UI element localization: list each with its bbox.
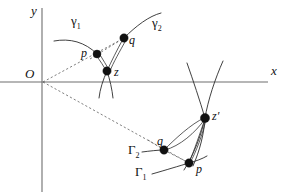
point-label-p-lower: p <box>196 163 202 175</box>
point-label-p-upper: p <box>81 47 87 59</box>
zprime-branch-upper-left <box>187 63 205 118</box>
point-p-upper <box>93 50 101 58</box>
gamma-1-subscript: 1 <box>77 22 81 31</box>
figure-canvas: y x O γ1 γ2 Γ2 Γ1 p q z z′ q p <box>0 0 295 192</box>
Gamma-2-subscript: 2 <box>136 151 140 160</box>
point-label-z-upper: z <box>114 66 119 78</box>
x-axis-label: x <box>271 64 277 77</box>
diagram-svg <box>0 0 295 192</box>
point-p-lower <box>185 159 193 167</box>
point-label-q-upper: q <box>129 34 135 46</box>
point-label-z-prime: z′ <box>212 110 219 122</box>
origin-label: O <box>25 67 34 80</box>
point-q-upper <box>120 34 128 42</box>
Gamma-1-subscript: 1 <box>143 173 147 182</box>
Gamma-2-label: Γ2 <box>128 143 140 160</box>
Gamma-1-label: Γ1 <box>135 165 147 182</box>
gamma-2-label: γ2 <box>152 16 162 33</box>
gamma-2-subscript: 2 <box>158 24 162 33</box>
gamma-1-label: γ1 <box>71 14 81 31</box>
Gamma-2-base: Γ <box>128 142 136 157</box>
gamma-1-curve <box>54 40 97 54</box>
fan-curve-zprime-to-q-lower-inner <box>165 119 205 150</box>
Gamma-1-curve <box>152 163 189 174</box>
point-z-prime <box>200 113 209 122</box>
Gamma-1-base: Γ <box>135 164 143 179</box>
y-axis-label: y <box>31 4 37 17</box>
point-label-q-lower: q <box>157 135 163 147</box>
point-z-upper <box>103 67 111 75</box>
